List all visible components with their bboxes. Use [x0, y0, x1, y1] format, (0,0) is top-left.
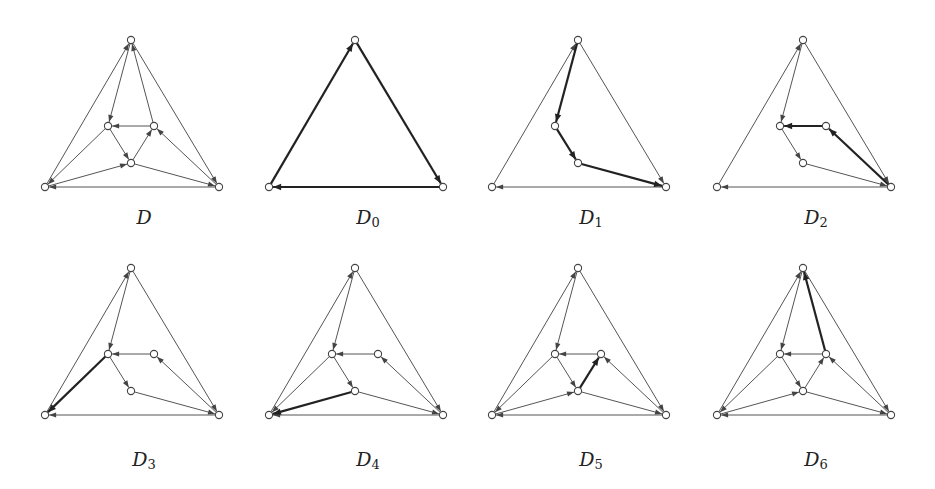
vertex-T	[799, 264, 806, 271]
vertex-BR	[662, 183, 669, 190]
arrowhead-icon	[658, 176, 664, 183]
arrowhead-icon	[559, 351, 566, 356]
vertex-T	[574, 36, 581, 43]
edge-BL-T	[494, 44, 576, 184]
edge-BR-IR	[157, 357, 216, 413]
edge-IB-BR	[134, 164, 215, 186]
arrowhead-icon	[780, 115, 785, 122]
edge-BL-T	[47, 44, 129, 184]
edge-T-IL	[781, 271, 802, 350]
edge-IL-BL	[48, 357, 105, 413]
digraph-D1	[480, 30, 702, 230]
vertex-T	[574, 264, 581, 271]
digraph-sequence-figure: D D0 D1 D2 D3 D4 D5 D6	[0, 0, 935, 489]
vertex-BR	[662, 411, 669, 418]
digraph-D6	[705, 258, 927, 458]
vertex-BL	[713, 411, 720, 418]
arrowhead-icon	[336, 351, 343, 356]
caption-D4: D4	[257, 448, 479, 472]
arrowhead-icon	[496, 184, 503, 189]
arrowhead-icon	[721, 184, 728, 189]
edge-T-BR	[357, 271, 441, 411]
caption-D-text: D	[136, 206, 151, 228]
edge-IB-BL	[273, 392, 352, 414]
vertex-T	[127, 36, 134, 43]
digraph-D	[33, 30, 255, 230]
arrowhead-icon	[146, 129, 152, 136]
vertex-IL	[776, 350, 783, 357]
edge-BR-IR	[829, 129, 888, 185]
caption-D6-subscript: 6	[819, 457, 827, 472]
vertex-IL	[328, 350, 335, 357]
vertex-IL	[551, 122, 558, 129]
edge-T-IL	[109, 43, 130, 122]
edge-T-IL	[556, 271, 577, 350]
vertex-IB	[574, 387, 581, 394]
panel-D2: D2	[705, 30, 927, 260]
vertex-IR	[597, 350, 604, 357]
arrowhead-icon	[108, 115, 113, 122]
vertex-BL	[41, 411, 48, 418]
caption-D1-text: D	[579, 206, 594, 228]
edge-BL-T	[47, 272, 129, 412]
edge-IL-BL	[272, 357, 329, 413]
caption-D5-subscript: 5	[594, 457, 602, 472]
caption-D: D	[33, 206, 255, 228]
arrowhead-icon	[112, 123, 119, 128]
caption-D1-subscript: 1	[594, 215, 602, 230]
arrowhead-icon	[570, 380, 576, 387]
vertex-IB	[127, 159, 134, 166]
caption-D2-text: D	[804, 206, 819, 228]
arrowhead-icon	[792, 391, 799, 396]
edge-BL-IB	[48, 164, 127, 186]
arrowhead-icon	[795, 380, 801, 387]
digraph-D3	[33, 258, 255, 458]
vertex-IB	[127, 387, 134, 394]
edge-T-IL	[333, 271, 354, 350]
arrowhead-icon	[332, 343, 337, 350]
arrowhead-icon	[818, 357, 824, 364]
arrowhead-icon	[784, 123, 792, 129]
vertex-T	[799, 36, 806, 43]
caption-D6-text: D	[804, 448, 819, 470]
arrowhead-icon	[434, 175, 441, 184]
panel-D6: D6	[705, 258, 927, 488]
edge-IL-BL	[48, 129, 105, 185]
digraph-D2	[705, 30, 927, 230]
digraph-D0	[257, 30, 479, 230]
caption-D2: D2	[705, 206, 927, 230]
edge-IB-BR	[581, 392, 662, 414]
digraph-D5	[480, 258, 702, 458]
edge-T-BR	[580, 271, 664, 411]
vertex-IL	[104, 350, 111, 357]
edge-BL-T	[271, 44, 353, 184]
caption-D6: D6	[705, 448, 927, 472]
arrowhead-icon	[123, 380, 129, 387]
edge-T-BR	[357, 43, 441, 183]
vertex-BR	[887, 183, 894, 190]
arrowhead-icon	[112, 351, 119, 356]
arrowhead-icon	[49, 412, 56, 417]
edge-BR-IR	[381, 357, 440, 413]
arrowhead-icon	[784, 351, 791, 356]
panel-D3: D3	[33, 258, 255, 488]
caption-D0-subscript: 0	[371, 215, 379, 230]
caption-D5: D5	[480, 448, 702, 472]
vertex-IR	[822, 122, 829, 129]
panel-D: D	[33, 30, 255, 260]
vertex-BL	[265, 183, 272, 190]
panel-D5: D5	[480, 258, 702, 488]
panel-D1: D1	[480, 30, 702, 260]
edge-T-IL	[781, 43, 802, 122]
vertex-BL	[41, 183, 48, 190]
arrowhead-icon	[273, 184, 281, 190]
edge-IL-BL	[720, 357, 777, 413]
caption-D3-text: D	[132, 448, 147, 470]
caption-D1: D1	[480, 206, 702, 230]
edge-T-BR	[133, 271, 217, 411]
vertex-BR	[439, 411, 446, 418]
vertex-IR	[374, 350, 381, 357]
edge-BL-T	[494, 272, 576, 412]
arrowhead-icon	[569, 151, 576, 159]
vertex-BR	[215, 411, 222, 418]
